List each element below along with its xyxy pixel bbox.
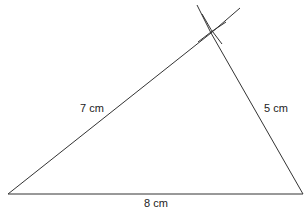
construction-arc-2	[202, 14, 222, 44]
triangle-diagram	[0, 0, 306, 211]
side-right	[211, 33, 303, 194]
label-left-side: 7 cm	[80, 102, 104, 114]
label-right-side: 5 cm	[264, 102, 288, 114]
side-left	[8, 33, 211, 194]
label-base: 8 cm	[144, 197, 168, 209]
construction-line-right	[197, 5, 211, 33]
